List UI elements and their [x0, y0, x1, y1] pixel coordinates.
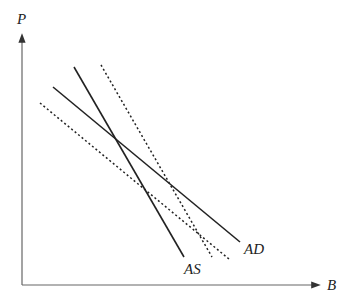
ad-curve — [53, 87, 240, 242]
as-label: AS — [183, 261, 201, 277]
as-shifted-curve — [101, 65, 212, 257]
as-curve — [74, 67, 184, 257]
ad-shifted-curve — [40, 103, 229, 259]
x-axis-label: B — [327, 277, 336, 293]
as-ad-diagram: P B AS AD — [0, 0, 353, 303]
ad-label: AD — [243, 241, 264, 257]
y-axis-label: P — [16, 11, 26, 27]
